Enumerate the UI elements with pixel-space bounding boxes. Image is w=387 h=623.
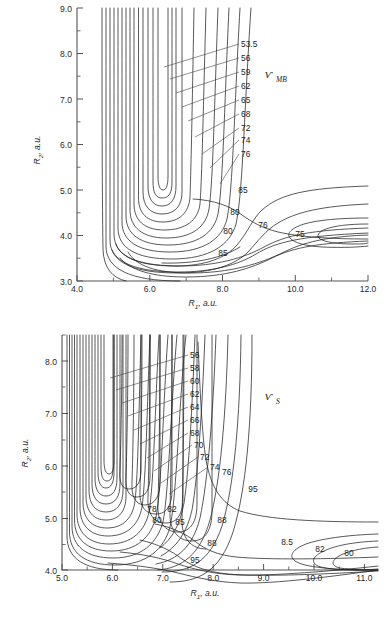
y-ticklabel: 5.0: [45, 514, 57, 524]
inline-contour-labels-bottom: 95 78 80 82 85 88 88 95 8.5 82 80: [147, 484, 354, 565]
potential-glyph: ѵ: [265, 388, 273, 403]
contour-label-75: 75: [295, 229, 305, 239]
x-ticklabel: 7.0: [157, 573, 169, 583]
contour-label-85: 85: [175, 517, 185, 527]
x-ticklabels-bottom: 5.0 6.0 7.0 8.0 9.0 10.0 11.0: [56, 573, 373, 583]
potential-subscript: MB: [275, 75, 287, 84]
contour-lines-bottom: [67, 335, 378, 583]
contour-label: 76: [222, 467, 232, 477]
svg-text:R2, a.u.: R2, a.u.: [32, 136, 44, 165]
x-axis-title-unit: , a.u.: [198, 298, 217, 308]
contour-label-80b: 80: [223, 226, 233, 236]
svg-text:R1, a.u.: R1, a.u.: [191, 588, 220, 600]
y-ticklabel: 6.0: [60, 140, 72, 150]
x-axis-title-top: R1, a.u.: [189, 298, 218, 310]
y-ticklabels-top: 9.0 8.0 7.0 6.0 5.0 4.0 3.0: [60, 4, 72, 287]
y-ticklabels-bottom: 8.0 7.0 6.0 5.0 4.0: [45, 357, 57, 576]
contour-label-88a: 88: [217, 515, 227, 525]
contour-panel-vs: 8.0 7.0 6.0 5.0 4.0 5.0 6.0 7.0 8.0 9.0 …: [0, 320, 387, 623]
potential-subscript: S: [276, 397, 280, 406]
y-ticklabel: 7.0: [60, 95, 72, 105]
contour-label-76: 76: [258, 220, 268, 230]
contour-lines-top: [102, 8, 368, 281]
contour-label-95a: 95: [248, 484, 258, 494]
contour-label: 56: [241, 53, 251, 63]
contour-label: 58: [190, 363, 200, 373]
contour-label-88b: 88: [207, 538, 217, 548]
contour-label-82r: 82: [315, 544, 325, 554]
potential-symbol-vmb: ѵ MB: [265, 66, 287, 84]
contour-labels-top: 53.5 56 59 62 65 68 72 74 76: [241, 39, 258, 159]
contour-label: 53.5: [241, 39, 258, 49]
contour-label-82: 82: [167, 504, 177, 514]
x-ticklabel: 5.0: [56, 573, 68, 583]
y-ticklabel: 4.0: [60, 231, 72, 241]
contour-label: 72: [200, 452, 210, 462]
x-ticklabel: 10.0: [287, 284, 304, 294]
x-ticklabel: 6.0: [144, 284, 156, 294]
contour-label: 74: [210, 462, 220, 472]
contour-label: 59: [241, 67, 251, 77]
contour-panel-vmb: 9.0 8.0 7.0 6.0 5.0 4.0 3.0 4.0 6.0 8.0 …: [0, 0, 387, 320]
y-axis-title-unit: , a.u.: [32, 136, 42, 155]
y-ticklabel: 8.0: [60, 49, 72, 59]
contour-label: 64: [190, 402, 200, 412]
svg-text:R2, a.u.: R2, a.u.: [20, 439, 32, 468]
contour-label: 62: [190, 389, 200, 399]
x-axis-title-bottom: R1, a.u.: [191, 588, 220, 600]
contour-label-85r: 8.5: [281, 537, 293, 547]
potential-glyph: ѵ: [265, 66, 273, 81]
contour-svg-top: 9.0 8.0 7.0 6.0 5.0 4.0 3.0 4.0 6.0 8.0 …: [0, 0, 387, 320]
contour-label: 56: [190, 350, 200, 360]
contour-label: 62: [241, 81, 251, 91]
contour-label-85b: 85: [218, 248, 228, 258]
contour-label: 74: [241, 135, 251, 145]
x-ticklabel: 4.0: [71, 284, 83, 294]
contour-label-85a: 85: [238, 185, 248, 195]
axes-bottom: [62, 335, 378, 570]
y-axis-title-top: R2, a.u.: [32, 136, 44, 165]
y-ticklabel: 5.0: [60, 186, 72, 196]
contour-label-80r: 80: [344, 548, 354, 558]
contour-label: 60: [190, 376, 200, 386]
x-ticklabel: 6.0: [106, 573, 118, 583]
y-ticklabel: 8.0: [45, 357, 57, 367]
y-ticklabel: 7.0: [45, 409, 57, 419]
contour-svg-bottom: 8.0 7.0 6.0 5.0 4.0 5.0 6.0 7.0 8.0 9.0 …: [0, 320, 387, 623]
contour-label: 68: [241, 109, 251, 119]
contour-label-80: 80: [152, 515, 162, 525]
potential-symbol-vs: ѵ S: [265, 388, 280, 406]
contour-label: 76: [241, 149, 251, 159]
x-ticklabel: 8.0: [207, 573, 219, 583]
contour-label: 68: [190, 428, 200, 438]
y-ticklabel: 9.0: [60, 4, 72, 14]
contour-label-78: 78: [147, 504, 157, 514]
contour-label: 66: [190, 415, 200, 425]
y-axis-title-bottom: R2, a.u.: [20, 439, 32, 468]
y-axis-title-unit: , a.u.: [20, 439, 30, 458]
contour-label: 65: [241, 95, 251, 105]
y-ticklabel: 6.0: [45, 462, 57, 472]
inline-contour-labels-top: 85 80 80 76 75 85: [218, 185, 305, 258]
x-ticklabels-top: 4.0 6.0 8.0 10.0 12.0: [71, 284, 377, 294]
contour-label: 72: [241, 123, 251, 133]
contour-label: 70: [194, 440, 204, 450]
svg-text:R1, a.u.: R1, a.u.: [189, 298, 218, 310]
x-axis-title-unit: , a.u.: [200, 588, 219, 598]
x-ticklabel: 11.0: [356, 573, 372, 583]
x-ticklabel: 12.0: [360, 284, 377, 294]
x-ticklabel: 8.0: [217, 284, 229, 294]
contour-label-95b: 95: [190, 555, 200, 565]
y-major-ticks-top: [77, 8, 83, 281]
contour-label-80a: 80: [230, 207, 240, 217]
x-major-ticks-top: [77, 275, 368, 281]
